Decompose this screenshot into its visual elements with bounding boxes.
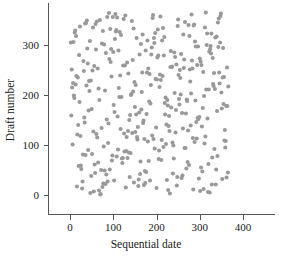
data-point — [156, 53, 160, 57]
data-points-layer — [69, 10, 231, 196]
data-point — [102, 144, 106, 148]
data-point — [177, 102, 181, 106]
data-point — [99, 168, 103, 172]
data-point — [148, 178, 152, 182]
data-point — [104, 51, 108, 55]
data-point — [87, 89, 91, 93]
data-point — [77, 100, 81, 104]
data-point — [80, 179, 84, 183]
data-point — [119, 95, 123, 99]
data-point — [113, 37, 117, 41]
data-point — [145, 112, 149, 116]
data-point — [84, 83, 88, 87]
data-point — [109, 74, 113, 78]
data-point — [117, 86, 121, 90]
data-point — [138, 52, 142, 56]
data-point — [122, 131, 126, 135]
data-point — [93, 171, 97, 175]
data-point — [137, 177, 141, 181]
data-point — [206, 162, 210, 166]
data-point — [147, 159, 151, 163]
data-point — [181, 126, 185, 130]
data-point — [216, 20, 220, 24]
data-point — [176, 24, 180, 28]
data-point — [181, 32, 185, 36]
data-point — [223, 145, 227, 149]
data-point — [210, 182, 214, 186]
data-point — [175, 183, 179, 187]
data-point — [111, 50, 115, 54]
data-point — [146, 66, 150, 70]
data-point — [205, 116, 209, 120]
data-point — [83, 120, 87, 124]
data-point — [116, 147, 120, 151]
data-point — [195, 136, 199, 140]
data-point — [160, 138, 164, 142]
data-point — [138, 159, 142, 163]
data-point — [193, 98, 197, 102]
data-point — [176, 17, 180, 21]
y-tick-label: 0 — [34, 189, 40, 201]
data-point — [142, 137, 146, 141]
data-point — [170, 64, 174, 68]
data-point — [101, 29, 105, 33]
data-point — [191, 187, 195, 191]
data-point — [226, 170, 230, 174]
data-point — [180, 173, 184, 177]
data-point — [196, 44, 200, 48]
data-point — [128, 113, 132, 117]
data-point — [100, 185, 104, 189]
data-point — [215, 34, 219, 38]
data-point — [199, 63, 203, 67]
data-point — [114, 28, 118, 32]
data-point — [177, 97, 181, 101]
data-point — [189, 12, 193, 16]
data-point — [219, 90, 223, 94]
data-point — [85, 46, 89, 50]
data-point — [90, 152, 94, 156]
data-point — [165, 178, 169, 182]
data-point — [225, 175, 229, 179]
data-point — [193, 39, 197, 43]
data-point — [134, 83, 138, 87]
data-point — [120, 161, 124, 165]
data-point — [112, 178, 116, 182]
data-point — [214, 167, 218, 171]
data-point — [112, 103, 116, 107]
data-point — [191, 136, 195, 140]
data-point — [215, 109, 219, 113]
data-point — [153, 146, 157, 150]
data-point — [72, 96, 76, 100]
data-point — [123, 13, 127, 17]
data-point — [136, 184, 140, 188]
data-point — [225, 104, 229, 108]
data-point — [92, 64, 96, 68]
data-point — [182, 57, 186, 61]
data-point — [138, 172, 142, 176]
x-tick-label: 100 — [105, 221, 122, 233]
data-point — [110, 153, 114, 157]
data-point — [187, 163, 191, 167]
data-point — [212, 147, 216, 151]
data-point — [169, 105, 173, 109]
data-point — [187, 34, 191, 38]
data-point — [82, 69, 86, 73]
data-point — [152, 36, 156, 40]
data-point — [167, 114, 171, 118]
data-point — [185, 99, 189, 103]
data-point — [184, 111, 188, 115]
data-point — [164, 142, 168, 146]
data-point — [92, 189, 96, 193]
data-point — [153, 31, 157, 35]
data-point — [124, 185, 128, 189]
data-point — [78, 24, 82, 28]
data-point — [221, 46, 225, 50]
data-point — [99, 192, 103, 196]
data-point — [190, 66, 194, 70]
data-point — [174, 108, 178, 112]
data-point — [199, 165, 203, 169]
data-point — [173, 55, 177, 59]
data-point — [86, 61, 90, 65]
data-point — [160, 38, 164, 42]
x-tick-label: 400 — [235, 221, 252, 233]
